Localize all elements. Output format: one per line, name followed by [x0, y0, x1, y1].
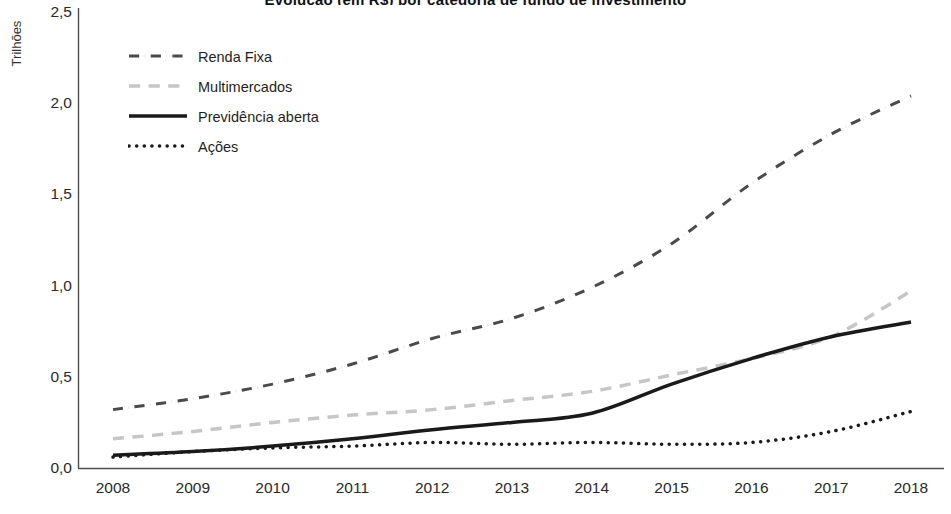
series-line-multimercados — [113, 291, 911, 439]
legend-item[interactable]: Multimercados — [128, 72, 388, 102]
legend-item[interactable]: Ações — [128, 132, 388, 162]
legend-item[interactable]: Renda Fixa — [128, 42, 388, 72]
legend-label: Renda Fixa — [198, 49, 272, 65]
chart-legend: Renda FixaMultimercadosPrevidência abert… — [128, 42, 388, 162]
legend-label: Previdência aberta — [198, 109, 319, 125]
series-line-previd-ncia-aberta — [113, 322, 911, 455]
legend-label: Ações — [198, 139, 238, 155]
line-chart: Evolução (em R$) por categoria de fundo … — [0, 0, 951, 514]
legend-label: Multimercados — [198, 79, 292, 95]
legend-item[interactable]: Previdência aberta — [128, 102, 388, 132]
